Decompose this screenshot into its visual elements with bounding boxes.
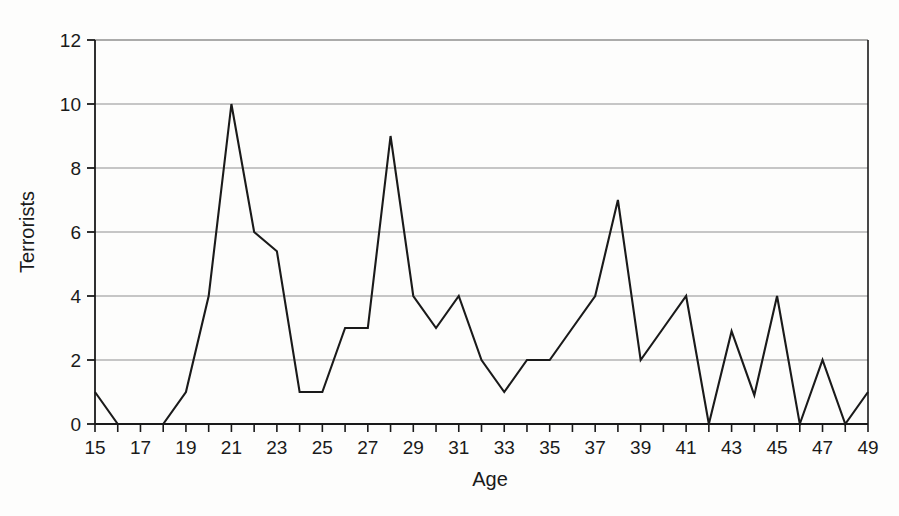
y-axis-title: Terrorists [16, 191, 38, 273]
x-tick-label: 41 [676, 437, 697, 458]
x-tick-label: 29 [403, 437, 424, 458]
x-tick-label: 23 [266, 437, 287, 458]
line-chart: 024681012 151719212325272931333537394143… [0, 0, 899, 516]
y-tick-label: 2 [70, 350, 81, 371]
x-tick-label: 37 [585, 437, 606, 458]
y-tick-label: 10 [60, 94, 81, 115]
x-tick-label: 15 [84, 437, 105, 458]
y-tick-label: 12 [60, 30, 81, 51]
chart-container: 024681012 151719212325272931333537394143… [0, 0, 899, 516]
x-tick-label: 35 [539, 437, 560, 458]
x-tick-label: 31 [448, 437, 469, 458]
y-tick-label: 8 [70, 158, 81, 179]
x-tick-label: 39 [630, 437, 651, 458]
x-tick-label: 49 [857, 437, 878, 458]
x-tick-label: 19 [175, 437, 196, 458]
x-axis-title: Age [472, 468, 508, 490]
x-tick-label: 27 [357, 437, 378, 458]
x-tick-label: 47 [812, 437, 833, 458]
y-tick-label: 4 [70, 286, 81, 307]
x-tick-label: 43 [721, 437, 742, 458]
x-tick-label: 17 [130, 437, 151, 458]
x-tick-label: 45 [766, 437, 787, 458]
x-tick-label: 25 [312, 437, 333, 458]
y-tick-label: 0 [70, 414, 81, 435]
x-tick-label: 21 [221, 437, 242, 458]
x-tick-label: 33 [494, 437, 515, 458]
y-tick-label: 6 [70, 222, 81, 243]
